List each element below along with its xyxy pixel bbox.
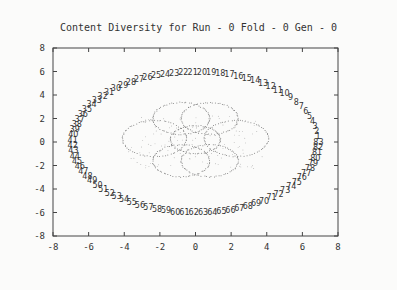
y-tick-label: 0: [40, 137, 45, 147]
x-tick-label: 2: [228, 242, 233, 252]
point-label: 20: [197, 68, 207, 77]
x-tick-label: 6: [300, 242, 305, 252]
point-label: 16: [233, 72, 243, 81]
x-tick-label: 4: [264, 242, 269, 252]
point-label: 83: [313, 138, 323, 147]
y-tick-label: 4: [40, 90, 45, 100]
point-label: 21: [188, 68, 198, 77]
point-label: 25: [151, 71, 161, 80]
y-tick-label: 2: [40, 114, 45, 124]
point-label: 6: [303, 107, 308, 116]
scatter-plot: -8-6-4-202468-8-6-4-20246812345678910111…: [0, 0, 397, 290]
y-tick-label: 8: [40, 43, 45, 53]
point-label: 18: [215, 69, 225, 78]
point-label: 23: [169, 69, 179, 78]
x-tick-label: 8: [335, 242, 340, 252]
y-tick-label: -6: [34, 208, 45, 218]
y-tick-label: 6: [40, 67, 45, 77]
point-label: 24: [160, 70, 170, 79]
x-tick-label: -6: [83, 242, 94, 252]
point-label: 22: [178, 68, 188, 77]
point-label: 8: [294, 98, 299, 107]
y-tick-label: -4: [34, 184, 45, 194]
y-tick-label: -2: [34, 161, 45, 171]
point-label: 17: [224, 70, 234, 79]
point-label: 19: [206, 68, 216, 77]
point-label: 7: [299, 102, 304, 111]
x-tick-label: -8: [48, 242, 59, 252]
y-tick-label: -8: [34, 231, 45, 241]
x-tick-label: -4: [119, 242, 130, 252]
x-tick-label: -2: [154, 242, 165, 252]
x-tick-label: 0: [193, 242, 198, 252]
